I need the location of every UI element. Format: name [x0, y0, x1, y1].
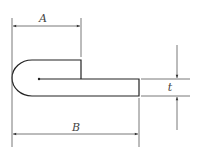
inner-fold-end-dot [38, 78, 40, 80]
hem-dimension-diagram: A B t [0, 0, 199, 157]
dimension-t-label: t [168, 81, 173, 94]
dimension-b: B [13, 121, 138, 134]
dimension-b-label: B [71, 121, 80, 134]
dimension-a: A [13, 12, 80, 26]
dimension-t: t [168, 45, 177, 130]
part-outline [12, 60, 139, 96]
dimension-a-label: A [38, 12, 47, 25]
outer-profile [12, 60, 139, 96]
extension-lines [12, 18, 190, 147]
